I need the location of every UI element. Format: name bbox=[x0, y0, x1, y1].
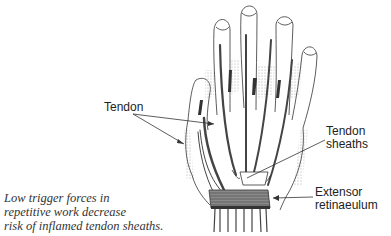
extensor-retinaculum-label: Extensor retinaeulum bbox=[315, 186, 378, 212]
wrist-structures bbox=[232, 170, 270, 185]
caption: Low trigger forces in repetitive work de… bbox=[4, 191, 163, 233]
caption-line1: Low trigger forces in bbox=[4, 191, 163, 205]
leader-lines bbox=[133, 114, 325, 198]
tendon-sheaths-line2: sheaths bbox=[326, 138, 368, 151]
hand-anatomy-diagram: Tendon Tendon sheaths Extensor retinaeul… bbox=[0, 0, 391, 236]
tendon-label: Tendon bbox=[104, 101, 143, 114]
caption-line3: risk of inflamed tendon sheaths. bbox=[4, 219, 163, 233]
forearm-tendons bbox=[214, 209, 267, 232]
tendon-sheaths-label: Tendon sheaths bbox=[326, 125, 368, 151]
caption-line2: repetitive work decrease bbox=[4, 205, 163, 219]
extensor-line2: retinaeulum bbox=[315, 199, 378, 212]
extensor-retinaculum-band bbox=[209, 190, 270, 209]
